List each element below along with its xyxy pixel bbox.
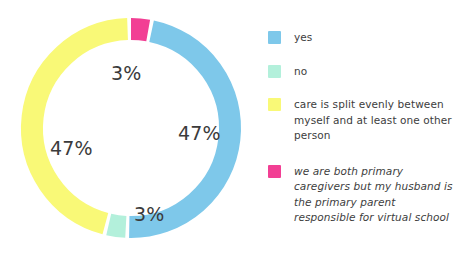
chart-legend: yes no care is split evenly between myse… bbox=[268, 30, 460, 241]
slice-label-care-split: 47% bbox=[50, 139, 93, 158]
slice-label-both-primary: 3% bbox=[111, 64, 142, 83]
legend-label-yes: yes bbox=[294, 30, 312, 46]
legend-label-care-split: care is split evenly between myself and … bbox=[294, 97, 460, 144]
donut-slice-both-primary[interactable] bbox=[131, 29, 148, 31]
slice-label-yes: 47% bbox=[178, 124, 221, 143]
legend-item-both-primary[interactable]: we are both primary caregivers but my hu… bbox=[268, 164, 460, 226]
slice-label-no: 3% bbox=[134, 205, 165, 224]
legend-label-both-primary: we are both primary caregivers but my hu… bbox=[294, 164, 460, 226]
legend-item-no[interactable]: no bbox=[268, 64, 460, 80]
legend-label-no: no bbox=[294, 64, 307, 80]
donut-slice-care-split[interactable] bbox=[32, 29, 128, 224]
legend-swatch-both-primary-icon bbox=[268, 165, 281, 178]
legend-swatch-care-split-icon bbox=[268, 98, 281, 111]
donut-chart-figure: 3% 47% 47% 3% yes no care is split evenl… bbox=[0, 0, 465, 259]
legend-swatch-yes-icon bbox=[268, 31, 281, 44]
legend-item-care-split[interactable]: care is split evenly between myself and … bbox=[268, 97, 460, 144]
legend-item-yes[interactable]: yes bbox=[268, 30, 460, 46]
donut-slice-no[interactable] bbox=[109, 224, 126, 226]
donut-chart-graphic: 3% 47% 47% 3% bbox=[8, 6, 254, 254]
legend-swatch-no-icon bbox=[268, 65, 281, 78]
